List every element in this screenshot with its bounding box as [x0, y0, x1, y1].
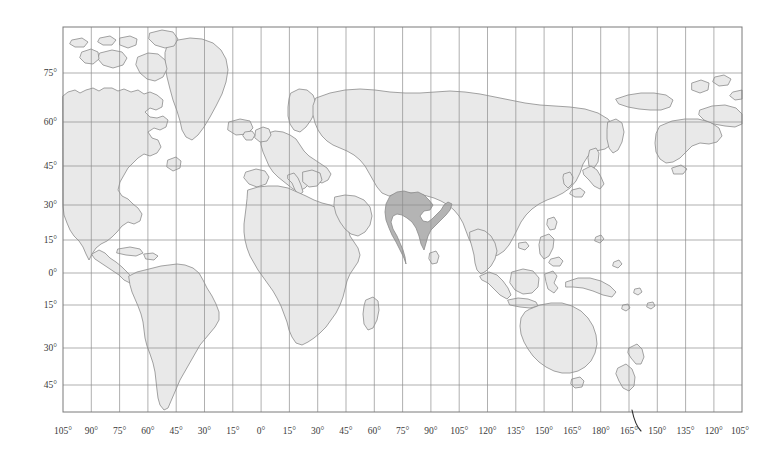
world-map-svg: 105° 90° 75° 60° 45° 30° 15° 0° 15° 30° …: [0, 0, 766, 458]
lat-label-0: 75°: [44, 68, 58, 78]
lon-label-11: 60°: [368, 426, 382, 436]
lon-label-19: 180°: [592, 426, 610, 436]
lon-label-0: 105°: [54, 426, 72, 436]
lon-label-6: 15°: [226, 426, 240, 436]
lon-label-15: 120°: [478, 426, 496, 436]
lat-label-6: 15°: [44, 300, 58, 310]
lat-label-8: 45°: [44, 380, 58, 390]
lon-label-1: 90°: [85, 426, 99, 436]
lat-label-7: 30°: [44, 343, 58, 353]
lat-label-4: 15°: [44, 235, 58, 245]
lon-label-10: 45°: [339, 426, 353, 436]
lon-label-24: 105°: [731, 426, 749, 436]
lat-label-3: 30°: [44, 200, 58, 210]
land-sri-lanka: [429, 251, 439, 264]
land-ireland: [243, 131, 255, 140]
lon-label-13: 90°: [424, 426, 438, 436]
lat-label-2: 45°: [44, 161, 58, 171]
lon-label-16: 135°: [507, 426, 525, 436]
lon-label-5: 30°: [198, 426, 212, 436]
lon-label-9: 30°: [311, 426, 325, 436]
lon-label-4: 45°: [170, 426, 184, 436]
lon-label-3: 60°: [141, 426, 155, 436]
lat-label-1: 60°: [44, 117, 58, 127]
lon-label-12: 75°: [396, 426, 410, 436]
lat-label-5: 0°: [48, 268, 57, 278]
lon-label-17: 150°: [535, 426, 553, 436]
land-tasmania: [571, 377, 584, 388]
lon-label-18: 165°: [563, 426, 581, 436]
lon-label-2: 75°: [113, 426, 127, 436]
lon-label-22: 135°: [677, 426, 695, 436]
land-taiwan: [547, 217, 557, 230]
lon-label-23: 120°: [705, 426, 723, 436]
lon-label-20: 165°: [620, 426, 638, 436]
lon-label-21: 150°: [648, 426, 666, 436]
lon-label-7: 0°: [257, 426, 266, 436]
world-map-figure: 105° 90° 75° 60° 45° 30° 15° 0° 15° 30° …: [0, 0, 766, 458]
lon-label-14: 105°: [450, 426, 468, 436]
lon-label-8: 15°: [283, 426, 297, 436]
